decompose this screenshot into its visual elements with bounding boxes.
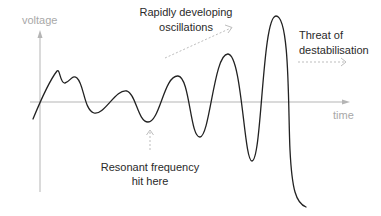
oscillations-annotation: Rapidly developing oscillations xyxy=(136,6,236,34)
resonance-annotation: Resonant frequency hit here xyxy=(98,161,202,188)
destabilisation-arrow xyxy=(298,58,346,66)
resonance-arrow xyxy=(147,130,154,150)
y-axis xyxy=(38,30,43,192)
oscillations-line1: Rapidly developing xyxy=(136,6,236,19)
oscillations-line2: oscillations xyxy=(136,21,236,34)
resonance-line1: Resonant frequency xyxy=(98,161,202,174)
destabilisation-line1: Threat of xyxy=(299,29,369,42)
x-axis-arrowhead-icon xyxy=(342,100,350,105)
resonance-line2: hit here xyxy=(98,175,202,188)
x-axis-label: time xyxy=(333,109,354,122)
x-axis xyxy=(30,100,350,105)
y-axis-label: voltage xyxy=(22,14,57,27)
destabilisation-annotation: Threat of destabilisation xyxy=(299,29,369,57)
destabilisation-line2: destabilisation xyxy=(299,44,369,57)
y-axis-arrowhead-icon xyxy=(38,30,43,38)
